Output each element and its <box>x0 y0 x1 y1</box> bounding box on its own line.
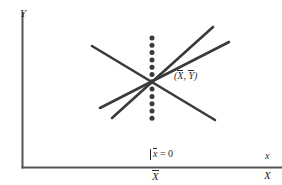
regression-lines-group <box>92 27 229 120</box>
x-mean-zero-label: x = 0 <box>153 148 173 160</box>
x-axis-label-uppercase: X <box>264 170 271 181</box>
x-axis-label-lowercase: x <box>265 151 269 161</box>
x-mean-axis-symbol: X <box>152 170 159 183</box>
point-of-means-label: (X, Y) <box>174 70 197 82</box>
steep-ascending-regression-line <box>112 27 213 118</box>
y-axis-label: Y <box>20 8 26 19</box>
regression-lines-figure: Y x X x = 0 X (X, Y) <box>0 0 282 185</box>
x-mean-axis-label: X <box>152 170 159 183</box>
shallow-ascending-regression-line <box>100 42 229 108</box>
figure-canvas <box>0 0 282 185</box>
x-mean-axis-tick <box>150 149 151 160</box>
mean-vertical-dotted-line <box>150 36 155 121</box>
x-mean-zero-equation: = 0 <box>157 148 173 159</box>
means-paren-close: ) <box>194 70 197 81</box>
